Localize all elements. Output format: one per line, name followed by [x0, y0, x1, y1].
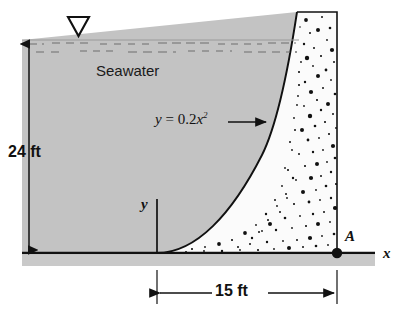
x-axis-label: x — [383, 245, 391, 262]
curve-equation-label: y = 0.2x2 — [155, 110, 208, 128]
y-axis-label: y — [141, 196, 148, 213]
equation-exponent: 2 — [203, 110, 208, 120]
ground — [22, 253, 375, 266]
water-level-triangle-icon — [68, 17, 89, 36]
height-dimension-label: 24 ft — [8, 143, 41, 161]
seawater-label: Seawater — [96, 62, 159, 79]
point-a-label: A — [345, 228, 355, 245]
figure-root: Seawater 24 ft 15 ft y = 0.2x2 y x A — [0, 0, 401, 321]
equation-lhs: y — [155, 111, 162, 127]
width-dimension-label: 15 ft — [215, 282, 248, 300]
diagram-canvas — [0, 0, 401, 321]
equation-operator: = 0.2 — [162, 111, 197, 127]
point-a-marker — [332, 248, 342, 258]
